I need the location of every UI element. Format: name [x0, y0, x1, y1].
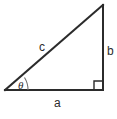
label-angle-theta: θ — [18, 80, 23, 91]
angle-arc-icon — [25, 78, 29, 91]
label-side-b: b — [107, 45, 114, 57]
side-c-line — [5, 5, 103, 90]
right-angle-marker-icon — [94, 81, 102, 89]
label-side-a: a — [54, 97, 61, 109]
right-triangle-figure: c b a θ — [0, 0, 117, 119]
label-side-c: c — [39, 41, 45, 53]
